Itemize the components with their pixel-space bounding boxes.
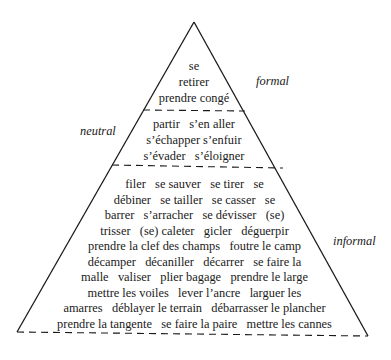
informal-line: mettre les voiles lever l’ancre larguer … [0, 286, 391, 301]
informal-line: trisser (se) caleter gicler déguerpir [0, 224, 391, 239]
informal-line: barrer s’arracher se dévisser (se) [0, 208, 391, 223]
informal-line: décamper décaniller décarrer se faire la [0, 255, 391, 270]
informal-section: filer se sauver se tirer se débiner se t… [0, 0, 391, 340]
informal-line: débiner se tailler se casser se [0, 193, 391, 208]
informal-line: amarres déblayer le terrain débarrasser … [0, 301, 391, 316]
informal-line: prendre la tangente se faire la paire me… [0, 317, 391, 332]
informal-line: filer se sauver se tirer se [0, 177, 391, 192]
informal-line: malle valiser plier bagage prendre le la… [0, 270, 391, 285]
informal-line: prendre la clef des champs foutre le cam… [0, 239, 391, 254]
